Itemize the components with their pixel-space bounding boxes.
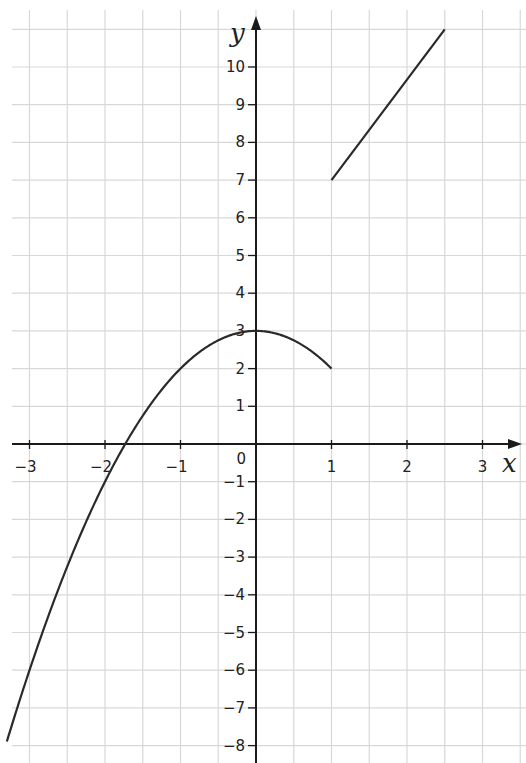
y-tick-label: 9: [235, 96, 245, 114]
y-tick-label: −3: [223, 548, 245, 566]
grid: [12, 10, 526, 763]
y-tick-label: 1: [235, 397, 245, 415]
y-tick-label: −4: [223, 586, 245, 604]
tick-labels: −3−2−1123−8−7−6−5−4−3−2−1123456789100xy: [14, 18, 517, 755]
axes: [12, 16, 522, 763]
y-tick-label: −2: [223, 510, 245, 528]
y-axis-label: y: [229, 18, 245, 48]
x-axis-label: x: [502, 448, 517, 478]
y-tick-label: −5: [223, 624, 245, 642]
y-tick-label: −7: [223, 699, 245, 717]
x-tick-label: 3: [478, 458, 488, 476]
y-tick-label: −6: [223, 661, 245, 679]
y-tick-label: 10: [226, 58, 245, 76]
y-axis-arrow-icon: [251, 16, 261, 30]
x-tick-label: 2: [402, 458, 412, 476]
parabola-curve: [7, 331, 332, 742]
y-tick-label: 4: [235, 284, 245, 302]
y-tick-label: 5: [235, 247, 245, 265]
piecewise-function-graph: −3−2−1123−8−7−6−5−4−3−2−1123456789100xy: [0, 0, 526, 763]
x-tick-label: 1: [327, 458, 337, 476]
x-tick-label: −1: [165, 458, 187, 476]
y-tick-label: 6: [235, 209, 245, 227]
origin-label: 0: [236, 450, 246, 468]
y-tick-label: 2: [235, 360, 245, 378]
y-tick-label: −8: [223, 737, 245, 755]
y-tick-label: −1: [223, 473, 245, 491]
y-tick-label: 7: [235, 171, 245, 189]
y-tick-label: 8: [235, 133, 245, 151]
x-tick-label: −3: [14, 458, 36, 476]
